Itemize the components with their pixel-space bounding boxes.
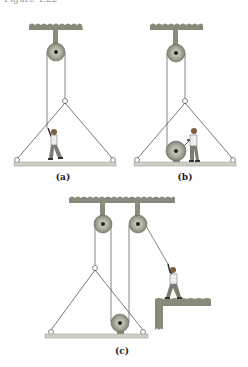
platform (134, 162, 236, 166)
person-icon (165, 264, 182, 299)
panel-label-b: (b) (178, 172, 193, 182)
ceiling-beam (69, 197, 175, 204)
ceiling-beam (150, 24, 203, 31)
winch-drum-icon (166, 140, 190, 162)
panel-c (45, 197, 211, 339)
ring (93, 266, 98, 271)
panel-a (14, 24, 116, 167)
panel-label-a: (a) (56, 172, 70, 182)
movable-pulley-icon (111, 314, 129, 334)
pulley-diagram (0, 0, 248, 367)
panel-label-c: (c) (115, 346, 129, 356)
platform (45, 334, 148, 338)
panel-b (134, 24, 236, 167)
person-icon (187, 128, 200, 162)
rope (146, 226, 168, 264)
ceiling-beam (29, 24, 83, 31)
ledge (155, 298, 211, 330)
ring (183, 99, 188, 104)
platform (14, 162, 116, 166)
person-icon (48, 128, 63, 160)
ring (63, 99, 68, 104)
